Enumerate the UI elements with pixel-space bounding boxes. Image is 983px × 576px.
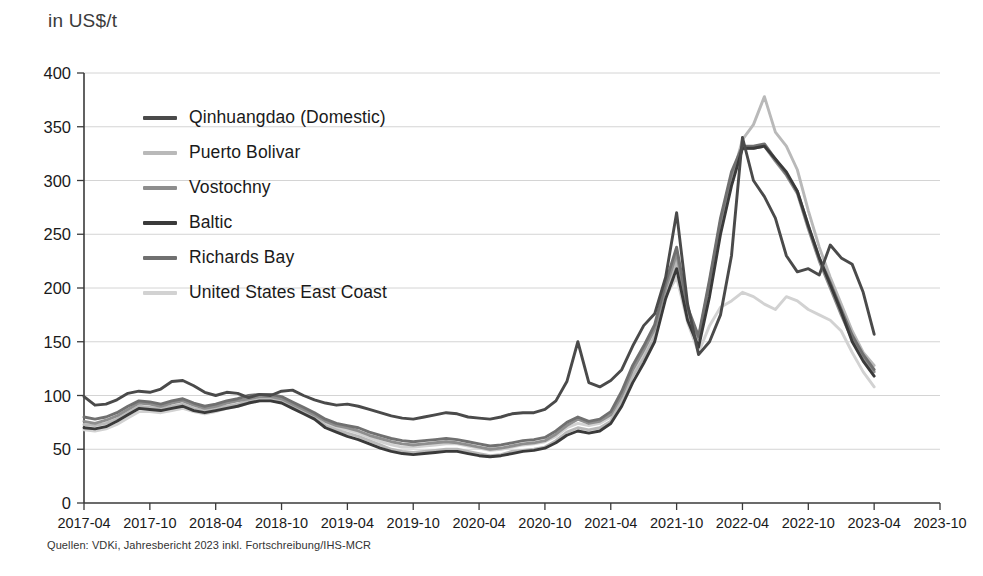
legend-item-label: Vostochny	[189, 177, 271, 198]
coal-price-chart: in US$/t 0501001502002503003504002017-04…	[0, 0, 983, 576]
legend-color-swatch	[143, 256, 177, 260]
x-tick-label: 2021-10	[650, 515, 703, 531]
legend-item: Richards Bay	[143, 240, 387, 275]
x-tick-label: 2020-10	[518, 515, 571, 531]
legend-item-label: Qinhuangdao (Domestic)	[189, 107, 386, 128]
legend-item-label: Richards Bay	[189, 247, 294, 268]
x-tick-label: 2021-04	[584, 515, 637, 531]
x-tick-label: 2020-04	[452, 515, 505, 531]
x-tick-label: 2023-10	[913, 515, 966, 531]
source-note: Quellen: VDKi, Jahresbericht 2023 inkl. …	[47, 539, 371, 551]
legend-item-label: Baltic	[189, 212, 232, 233]
legend-item-label: United States East Coast	[189, 282, 387, 303]
legend-item: Vostochny	[143, 170, 387, 205]
y-tick-label: 200	[43, 279, 71, 297]
y-tick-label: 400	[43, 64, 71, 82]
legend-item: Qinhuangdao (Domestic)	[143, 100, 387, 135]
legend-item-label: Puerto Bolivar	[189, 142, 300, 163]
x-tick-label: 2018-10	[255, 515, 308, 531]
x-tick-label: 2017-10	[123, 515, 176, 531]
legend-item: Puerto Bolivar	[143, 135, 387, 170]
y-tick-label: 0	[62, 494, 71, 512]
legend-item: Baltic	[143, 205, 387, 240]
y-tick-label: 100	[43, 387, 71, 405]
y-tick-label: 300	[43, 172, 71, 190]
legend-item: United States East Coast	[143, 275, 387, 310]
chart-legend: Qinhuangdao (Domestic)Puerto BolivarVost…	[143, 100, 387, 310]
x-tick-label: 2019-04	[321, 515, 374, 531]
legend-color-swatch	[143, 116, 177, 120]
legend-color-swatch	[143, 186, 177, 190]
x-tick-label: 2022-10	[782, 515, 835, 531]
legend-color-swatch	[143, 151, 177, 155]
y-tick-label: 250	[43, 225, 71, 243]
x-tick-label: 2018-04	[189, 515, 242, 531]
legend-color-swatch	[143, 291, 177, 295]
y-tick-label: 50	[53, 440, 71, 458]
y-tick-label: 150	[43, 333, 71, 351]
legend-color-swatch	[143, 221, 177, 225]
x-tick-label: 2023-04	[848, 515, 901, 531]
x-tick-label: 2017-04	[57, 515, 110, 531]
x-tick-label: 2022-04	[716, 515, 769, 531]
x-tick-label: 2019-10	[387, 515, 440, 531]
y-tick-label: 350	[43, 118, 71, 136]
